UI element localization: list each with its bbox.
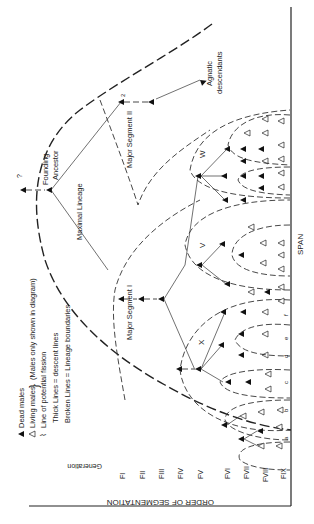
descent-to-x bbox=[164, 299, 195, 370]
fission-icon: ⌇ bbox=[39, 433, 48, 437]
descent-to-w bbox=[185, 176, 198, 265]
v-live-13 bbox=[248, 224, 254, 230]
kinship-segmentation-diagram: ORDER OF SEGMENTATION SPAN Generation FI… bbox=[0, 0, 314, 524]
major-segment-2-boundary bbox=[100, 100, 210, 205]
axis-label-span: SPAN bbox=[296, 234, 305, 255]
bottom-line-b bbox=[244, 431, 257, 439]
major-segment-2-label: Major Segment II bbox=[125, 111, 134, 168]
x-node-3 bbox=[218, 342, 224, 348]
x-live-a bbox=[262, 331, 268, 337]
w-live-15b bbox=[278, 156, 284, 162]
bottom-live-2b bbox=[276, 424, 282, 430]
w-live-16 bbox=[278, 118, 284, 124]
founding-ancestor-label-1: Founding bbox=[41, 154, 50, 185]
legend-thick-lines: Thick Lines = descent lines bbox=[51, 332, 60, 423]
generation-label-fviii: FVIII bbox=[262, 467, 269, 482]
span-letter-e: e bbox=[283, 336, 289, 340]
generation-label-fi: FI bbox=[119, 473, 126, 479]
generation-label-fii: FII bbox=[139, 471, 146, 479]
w-live-19 bbox=[262, 130, 268, 136]
ms1-ancestor bbox=[118, 296, 124, 302]
v-node-10 bbox=[264, 289, 270, 295]
v-branch-5 bbox=[202, 265, 226, 284]
w-live-12 bbox=[278, 184, 284, 190]
v-node-2 bbox=[196, 262, 202, 268]
descent-to-v bbox=[164, 265, 185, 299]
legend: Dead males Living males } (Males only sh… bbox=[17, 278, 72, 437]
legend-broken-lines: Broken Lines = Lineage boundaries bbox=[63, 305, 72, 423]
x-node-2 bbox=[225, 379, 231, 385]
segment-w-label: W bbox=[198, 150, 207, 158]
x-live-d bbox=[265, 386, 271, 392]
span-letter-d: d bbox=[283, 355, 289, 358]
generation-label-fiv: FIV bbox=[177, 468, 184, 479]
generation-label-fvii: FVII bbox=[243, 466, 250, 479]
x-branch-2 bbox=[201, 369, 223, 382]
generation-label-fv: FV bbox=[197, 470, 204, 479]
span-letters: a b c d e f bbox=[283, 314, 289, 440]
living-male-icon bbox=[29, 431, 35, 437]
w-node-13b bbox=[258, 185, 264, 191]
v-live-11 bbox=[260, 260, 266, 266]
bottom-live-3 bbox=[258, 409, 264, 415]
segment-x-boundary bbox=[180, 300, 290, 431]
bottom-node-2 bbox=[257, 428, 263, 434]
ms2-descendant bbox=[148, 99, 154, 105]
w-node-16 bbox=[258, 173, 264, 179]
ms1-gen3 bbox=[158, 296, 164, 302]
span-letter-c: c bbox=[283, 381, 289, 384]
v-live-7 bbox=[248, 289, 254, 295]
w-live-13 bbox=[278, 170, 284, 176]
bottom-node-1 bbox=[221, 422, 227, 428]
descent-line-ms2 bbox=[51, 102, 121, 190]
generation-label-fiii: FIII bbox=[158, 469, 165, 479]
agnatic-label-1: Agnatic bbox=[205, 61, 214, 86]
v-live-6 bbox=[278, 284, 284, 290]
major-segment-1-label: Major Segment I bbox=[125, 285, 134, 340]
v-live-9 bbox=[278, 240, 284, 246]
v-live-7b bbox=[278, 266, 284, 272]
bottom-live-1b bbox=[276, 443, 282, 449]
x-node-4 bbox=[220, 309, 226, 315]
x-sub-boundary-1 bbox=[235, 324, 290, 356]
span-letter-f: f bbox=[283, 314, 289, 316]
w-node-13 bbox=[240, 158, 246, 164]
axis-label-order-of-segmentation: ORDER OF SEGMENTATION bbox=[107, 498, 214, 507]
ms1-gen2 bbox=[138, 296, 144, 302]
v-node-8 bbox=[238, 252, 244, 258]
x-node-8-live bbox=[262, 309, 268, 315]
v-live-12 bbox=[260, 240, 266, 246]
x-node-4b bbox=[238, 352, 244, 358]
generation-label-fvi: FVI bbox=[224, 468, 231, 479]
legend-fission: Line of potential fission bbox=[39, 352, 48, 428]
bottom-live-2 bbox=[240, 413, 246, 419]
x-node-6 bbox=[240, 309, 246, 315]
x-live-c bbox=[265, 371, 271, 377]
founding-ancestor-label-2: Ancestor bbox=[51, 150, 60, 180]
ancestor-question-marker bbox=[20, 187, 26, 193]
w-node-11 bbox=[240, 197, 246, 203]
bottom-line-c bbox=[244, 439, 258, 446]
segment-x-label: X bbox=[197, 339, 206, 345]
w-live-17 bbox=[278, 142, 284, 148]
generation-header: Generation bbox=[67, 463, 102, 470]
lineage-bottom-boundary-2 bbox=[239, 442, 290, 470]
w-live-20 bbox=[262, 116, 268, 122]
x-node-1b bbox=[195, 366, 201, 372]
span-letter-a: a bbox=[283, 436, 289, 440]
v-live-5 bbox=[278, 298, 284, 304]
segment-v-label: V bbox=[198, 242, 207, 248]
agnatic-label-2: descendants bbox=[215, 51, 224, 94]
agnatic-arrow bbox=[156, 80, 200, 99]
legend-living-males: Living males bbox=[28, 386, 37, 428]
bottom-node-1b bbox=[238, 436, 244, 442]
legend-dead-males: Dead males bbox=[17, 388, 26, 428]
legend-males-note: (Males only shown in diagram) bbox=[28, 278, 37, 380]
x-node-3b bbox=[245, 379, 251, 385]
w-live-15 bbox=[244, 130, 250, 136]
span-letter-b: b bbox=[283, 408, 289, 412]
x-branch-3 bbox=[201, 345, 222, 369]
w-node-18 bbox=[258, 146, 264, 152]
x-node-5 bbox=[238, 331, 244, 337]
v-live-8 bbox=[278, 252, 284, 258]
